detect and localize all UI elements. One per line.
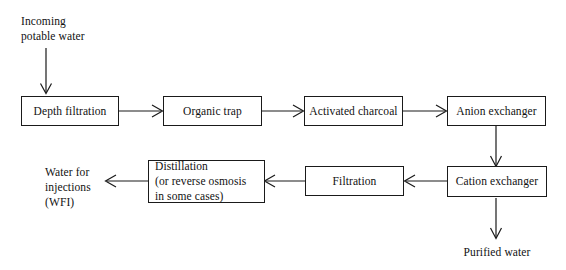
arrow-cation-exchanger-to-filtration (405, 175, 448, 187)
label-purified-water: Purified water (437, 245, 557, 260)
node-filtration-label: Filtration (333, 174, 377, 189)
label-water-for-injections: Water for injections (WFI) (45, 165, 115, 210)
arrow-depth-filtration-to-organic-trap (119, 105, 163, 117)
water-purification-flowchart: Incoming potable water Water for injecti… (0, 0, 566, 270)
arrow-anion-to-cation-exchanger (491, 126, 502, 167)
node-cation-exchanger[interactable]: Cation exchanger (447, 166, 547, 197)
node-depth-filtration[interactable]: Depth filtration (21, 96, 119, 126)
arrow-cation-exchanger-to-purified-water (491, 198, 502, 239)
node-activated-charcoal-label: Activated charcoal (309, 104, 397, 119)
node-filtration[interactable]: Filtration (305, 166, 404, 196)
node-distillation-label: Distillation (or reverse osmosis in some… (155, 159, 246, 203)
node-anion-exchanger[interactable]: Anion exchanger (447, 96, 546, 126)
arrow-organic-trap-to-activated-charcoal (262, 105, 304, 117)
node-depth-filtration-label: Depth filtration (34, 104, 107, 119)
arrow-filtration-to-distillation (265, 175, 306, 187)
arrow-inlet-to-depth-filtration (41, 48, 52, 94)
node-distillation[interactable]: Distillation (or reverse osmosis in some… (148, 160, 265, 203)
arrow-activated-charcoal-to-anion-exchanger (403, 105, 447, 117)
node-anion-exchanger-label: Anion exchanger (456, 104, 536, 119)
node-activated-charcoal[interactable]: Activated charcoal (304, 96, 403, 126)
node-cation-exchanger-label: Cation exchanger (456, 174, 538, 189)
node-organic-trap[interactable]: Organic trap (163, 96, 262, 126)
node-organic-trap-label: Organic trap (183, 104, 242, 119)
label-incoming-potable-water: Incoming potable water (21, 14, 131, 44)
